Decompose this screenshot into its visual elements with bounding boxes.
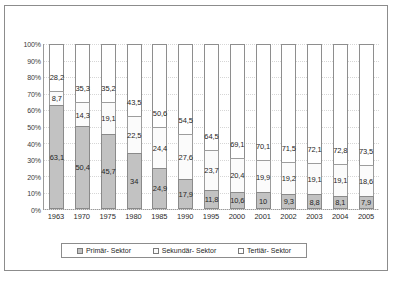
bar-segment[interactable]: 71,5 xyxy=(281,44,296,162)
bar-segment[interactable]: 73,5 xyxy=(359,44,374,165)
bar-value-label: 73,5 xyxy=(359,147,373,156)
bar-segment[interactable]: 72,8 xyxy=(333,44,348,164)
x-axis-tick-label: 2002 xyxy=(276,212,302,228)
bar-value-label: 8,7 xyxy=(52,94,62,103)
stacked-bar[interactable]: 71,519,29,3 xyxy=(281,44,296,209)
x-axis-tick-label: 2000 xyxy=(224,212,250,228)
bar-value-label: 19,9 xyxy=(256,172,270,181)
bar-value-label: 24,9 xyxy=(153,184,167,193)
y-axis: 100%90%80%70%60%50%40%30%20%10%0% xyxy=(13,44,41,210)
bar-segment[interactable]: 19,1 xyxy=(307,163,322,195)
y-axis-tick-label: 70% xyxy=(27,90,41,97)
bar-segment[interactable]: 19,1 xyxy=(333,164,348,196)
bar-value-label: 71,5 xyxy=(282,143,296,152)
stacked-bar[interactable]: 64,523,711,8 xyxy=(204,44,219,209)
bar-segment[interactable]: 22,5 xyxy=(127,116,142,153)
stacked-bar[interactable]: 50,624,424,9 xyxy=(152,44,167,209)
legend-label: Tertiär- Sektor xyxy=(247,247,291,254)
bar-value-label: 50,6 xyxy=(153,109,167,118)
bar-column[interactable]: 43,522,534 xyxy=(121,44,147,209)
bar-column[interactable]: 72,119,18,8 xyxy=(302,44,328,209)
bar-column[interactable]: 50,624,424,9 xyxy=(147,44,173,209)
bar-column[interactable]: 35,219,145,7 xyxy=(96,44,122,209)
bar-value-label: 17,9 xyxy=(179,190,193,199)
bar-segment[interactable]: 14,3 xyxy=(75,102,90,126)
bar-segment[interactable]: 45,7 xyxy=(101,134,116,209)
stacked-bar[interactable]: 69,120,410,6 xyxy=(230,44,245,209)
bar-column[interactable]: 72,819,18,1 xyxy=(327,44,353,209)
bar-segment[interactable]: 63,1 xyxy=(49,105,64,209)
bar-segment[interactable]: 34 xyxy=(127,153,142,209)
stacked-bar[interactable]: 72,119,18,8 xyxy=(307,44,322,209)
bar-segment[interactable]: 19,2 xyxy=(281,162,296,194)
bar-segment[interactable]: 7,9 xyxy=(359,196,374,209)
bar-column[interactable]: 54,527,617,9 xyxy=(173,44,199,209)
bar-value-label: 20,4 xyxy=(230,171,244,180)
bar-segment[interactable]: 69,1 xyxy=(230,44,245,158)
x-axis-tick-label: 1995 xyxy=(198,212,224,228)
x-axis-tick-label: 1985 xyxy=(146,212,172,228)
bar-segment[interactable]: 18,6 xyxy=(359,165,374,196)
x-axis-tick-label: 2001 xyxy=(250,212,276,228)
stacked-bar[interactable]: 43,522,534 xyxy=(127,44,142,209)
bar-segment[interactable]: 28,2 xyxy=(49,44,64,91)
x-axis-tick-label: 1970 xyxy=(69,212,95,228)
x-axis-tick-label: 1975 xyxy=(95,212,121,228)
bar-segment[interactable]: 35,3 xyxy=(75,44,90,102)
y-axis-tick-label: 40% xyxy=(27,140,41,147)
bar-segment[interactable]: 8,7 xyxy=(49,91,64,105)
bar-segment[interactable]: 50,6 xyxy=(152,44,167,127)
bar-segment[interactable]: 24,9 xyxy=(152,168,167,209)
bar-column[interactable]: 69,120,410,6 xyxy=(224,44,250,209)
bar-segment[interactable]: 11,8 xyxy=(204,190,219,209)
bar-column[interactable]: 35,314,350,4 xyxy=(70,44,96,209)
bar-column[interactable]: 64,523,711,8 xyxy=(199,44,225,209)
bar-segment[interactable]: 64,5 xyxy=(204,44,219,150)
y-axis-tick-label: 100% xyxy=(23,41,41,48)
stacked-bar[interactable]: 73,518,67,9 xyxy=(359,44,374,209)
bar-segment[interactable]: 54,5 xyxy=(178,44,193,134)
bar-column[interactable]: 71,519,29,3 xyxy=(276,44,302,209)
stacked-bar[interactable]: 54,527,617,9 xyxy=(178,44,193,209)
bar-segment[interactable]: 35,2 xyxy=(101,44,116,102)
legend-label: Primär- Sektor xyxy=(86,247,131,254)
bar-segment[interactable]: 70,1 xyxy=(256,44,271,160)
bar-segment[interactable]: 19,9 xyxy=(256,160,271,193)
bar-value-label: 19,1 xyxy=(101,114,115,123)
y-axis-tick-label: 20% xyxy=(27,173,41,180)
y-axis-tick-label: 10% xyxy=(27,190,41,197)
bar-segment[interactable]: 24,4 xyxy=(152,127,167,167)
bar-segment[interactable]: 27,6 xyxy=(178,134,193,180)
bar-segment[interactable]: 8,8 xyxy=(307,194,322,209)
legend-item[interactable]: Tertiär- Sektor xyxy=(238,247,291,254)
bar-value-label: 69,1 xyxy=(230,139,244,148)
bar-segment[interactable]: 50,4 xyxy=(75,126,90,209)
legend-item[interactable]: Primär- Sektor xyxy=(77,247,131,254)
stacked-bar[interactable]: 35,314,350,4 xyxy=(75,44,90,209)
bar-column[interactable]: 73,518,67,9 xyxy=(353,44,379,209)
stacked-bar[interactable]: 70,119,910 xyxy=(256,44,271,209)
bar-segment[interactable]: 9,3 xyxy=(281,194,296,209)
x-axis-tick-label: 1990 xyxy=(172,212,198,228)
bar-column[interactable]: 28,28,763,1 xyxy=(44,44,70,209)
bar-segment[interactable]: 17,9 xyxy=(178,179,193,209)
bar-segment[interactable]: 19,1 xyxy=(101,102,116,134)
x-axis-tick-label: 2005 xyxy=(353,212,379,228)
bar-segment[interactable]: 20,4 xyxy=(230,158,245,192)
bar-value-label: 23,7 xyxy=(204,166,218,175)
bar-segment[interactable]: 8,1 xyxy=(333,196,348,209)
stacked-bar[interactable]: 35,219,145,7 xyxy=(101,44,116,209)
legend-swatch-icon xyxy=(77,248,83,254)
bar-segment[interactable]: 10 xyxy=(256,192,271,209)
bar-column[interactable]: 70,119,910 xyxy=(250,44,276,209)
bar-segment[interactable]: 72,1 xyxy=(307,44,322,163)
stacked-bar[interactable]: 28,28,763,1 xyxy=(49,44,64,209)
legend-item[interactable]: Sekundär- Sektor xyxy=(153,247,216,254)
stacked-bar[interactable]: 72,819,18,1 xyxy=(333,44,348,209)
bar-segment[interactable]: 43,5 xyxy=(127,44,142,116)
bar-segment[interactable]: 10,6 xyxy=(230,192,245,209)
bar-segment[interactable]: 23,7 xyxy=(204,150,219,189)
bar-value-label: 54,5 xyxy=(179,115,193,124)
x-axis-tick-label: 1980 xyxy=(121,212,147,228)
bar-value-label: 8,8 xyxy=(309,197,319,206)
